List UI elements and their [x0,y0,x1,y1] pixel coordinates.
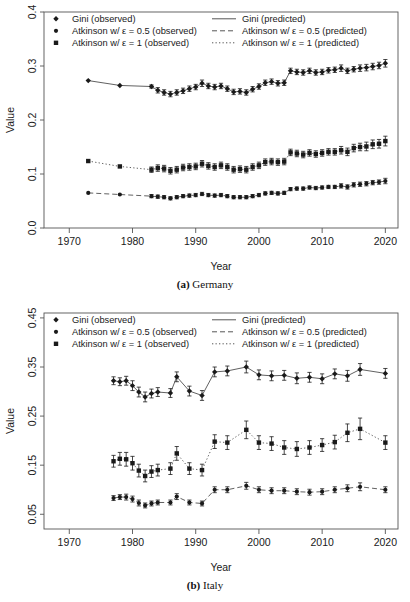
data-point [200,468,204,472]
legend-observed-label: Atkinson w/ ε = 0.5 (observed) [72,26,197,36]
data-point [168,91,173,96]
data-point [181,165,185,169]
data-point [168,169,172,173]
data-point [168,466,172,470]
data-point [130,461,134,465]
legend-predicted-label: Gini (predicted) [242,14,306,24]
data-point [168,390,173,395]
data-point [383,371,388,376]
data-point [282,159,286,163]
y-tick-label: 0.45 [26,308,38,329]
legend-observed-label: Gini (observed) [72,315,136,325]
data-point [275,81,280,86]
data-point [282,489,286,493]
data-point [338,65,343,70]
x-tick-label: 2020 [374,536,398,548]
data-point [345,68,350,73]
data-point [307,490,311,494]
chart-germany: 0.00.10.20.30.4197019801990200020102020Y… [0,0,410,270]
data-point [118,457,122,461]
data-point [282,191,286,195]
data-point [175,195,179,199]
data-point [288,68,293,73]
series-atkinson-w-e-1 [86,136,388,174]
data-point [332,67,337,72]
data-point [345,185,349,189]
data-point [345,150,349,154]
series-gini [86,60,389,97]
data-point [294,69,299,74]
data-point [117,83,122,88]
data-point [319,376,324,381]
data-point [213,194,217,198]
data-point [155,389,160,394]
data-point [86,78,91,83]
series-line [114,367,386,397]
data-point [282,373,287,378]
data-point [212,439,216,443]
x-tick-label: 1990 [184,536,208,548]
data-point [111,459,115,463]
legend-predicted-label: Atkinson w/ ε = 0.5 (predicted) [242,327,367,337]
data-point [352,183,356,187]
data-point [156,500,160,504]
data-point [206,83,211,88]
data-point [231,167,235,171]
data-point [206,193,210,197]
data-point [371,181,375,185]
legend-predicted-label: Gini (predicted) [242,315,306,325]
data-point [200,192,204,196]
x-tick-label: 2010 [310,536,334,548]
data-point [269,79,274,84]
legend-predicted-label: Atkinson w/ ε = 0.5 (predicted) [242,26,367,36]
data-point [244,484,248,488]
data-point [124,495,128,499]
x-axis-title: Year [210,561,232,571]
data-point [199,393,204,398]
data-point [149,194,153,198]
data-point [244,364,249,369]
series-line [114,486,386,506]
data-point [231,89,236,94]
panel-germany: 0.00.10.20.30.4197019801990200020102020Y… [0,0,410,301]
data-point [250,87,255,92]
data-point [301,186,305,190]
data-point [187,86,192,91]
data-point [339,148,343,152]
series-gini [111,361,388,402]
data-point [162,195,166,199]
caption-germany: (a) Germany [0,278,410,290]
data-point [351,67,356,72]
data-point [269,159,273,163]
y-axis-title: Value [4,107,16,133]
data-point [269,373,274,378]
data-point [352,146,356,150]
data-point [276,160,280,164]
data-point [319,69,324,74]
data-point [345,486,349,490]
x-tick-label: 2000 [247,235,271,247]
data-point [118,495,122,499]
data-point [225,368,230,373]
series-line [114,429,386,476]
data-point [276,191,280,195]
data-point [168,500,172,504]
data-point [364,144,368,148]
data-point [181,194,185,198]
data-point [130,497,134,501]
data-point [339,184,343,188]
x-tick-label: 1970 [58,536,82,548]
data-point [263,191,267,195]
data-point [288,150,292,154]
data-point [124,457,128,461]
data-point [187,194,191,198]
series-line [88,141,385,171]
data-point [288,187,292,191]
data-point [307,151,311,155]
series-atkinson-w-e-0-5 [111,482,387,508]
data-point [294,376,299,381]
data-point [218,83,223,88]
data-point [357,65,362,70]
data-point [156,468,160,472]
data-point [244,167,248,171]
